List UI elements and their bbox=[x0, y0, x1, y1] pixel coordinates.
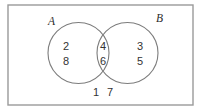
venn-diagram-page: A B 2 8 4 6 3 5 1 7 bbox=[0, 0, 202, 111]
element-intersection-2: 6 bbox=[100, 55, 106, 67]
venn-diagram-canvas: A B 2 8 4 6 3 5 1 7 bbox=[0, 0, 202, 111]
element-b-only-1: 3 bbox=[137, 40, 143, 52]
set-a-label: A bbox=[47, 15, 56, 27]
element-a-only-1: 2 bbox=[63, 40, 69, 52]
element-a-only-2: 8 bbox=[63, 55, 69, 67]
set-b-label: B bbox=[156, 12, 163, 24]
element-intersection-1: 4 bbox=[100, 40, 106, 52]
element-outside-1: 1 bbox=[93, 86, 99, 98]
element-b-only-2: 5 bbox=[137, 55, 143, 67]
element-outside-2: 7 bbox=[107, 86, 113, 98]
